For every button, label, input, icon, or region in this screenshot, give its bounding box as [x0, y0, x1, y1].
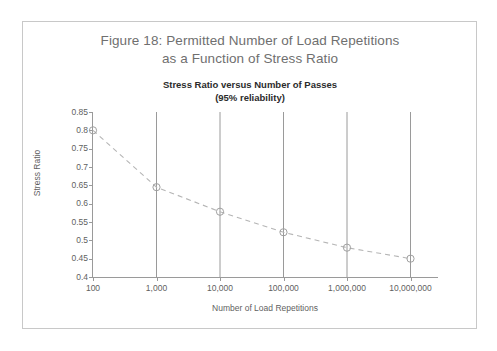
plot-svg: [93, 112, 437, 277]
chart-title: Stress Ratio versus Number of Passes (95…: [40, 79, 460, 104]
y-tick-label: 0.8: [54, 126, 88, 135]
figure-caption-line-2: as a Function of Stress Ratio: [40, 50, 460, 68]
y-tick-mark: [89, 204, 92, 205]
y-tick-mark: [89, 259, 92, 260]
y-tick-mark: [89, 130, 92, 131]
plot-area: [93, 112, 437, 277]
y-tick-mark: [89, 277, 92, 278]
y-tick-label: 0.7: [54, 163, 88, 172]
y-tick-label: 0.6: [54, 199, 88, 208]
x-axis-title: Number of Load Repetitions: [93, 303, 437, 313]
series-line-group: [93, 130, 411, 258]
y-tick-mark: [89, 167, 92, 168]
figure-caption: Figure 18: Permitted Number of Load Repe…: [40, 32, 460, 68]
y-tick-mark: [89, 185, 92, 186]
x-tick-mark: [220, 278, 221, 281]
y-tick-mark: [89, 222, 92, 223]
y-tick-mark: [89, 149, 92, 150]
x-tick-label: 10,000,000: [374, 283, 448, 293]
series-line: [93, 130, 411, 258]
x-tick-mark: [411, 278, 412, 281]
y-tick-label: 0.85: [54, 108, 88, 117]
y-tick-label: 0.55: [54, 218, 88, 227]
y-tick-label: 0.75: [54, 144, 88, 153]
x-tick-mark: [93, 278, 94, 281]
y-tick-mark: [89, 112, 92, 113]
x-tick-mark: [157, 278, 158, 281]
x-tick-mark: [284, 278, 285, 281]
series-markers-group: [89, 127, 414, 263]
y-axis-tick-labels: 0.850.80.750.70.650.60.550.50.450.4: [52, 0, 88, 351]
x-axis-line: [92, 277, 438, 278]
y-tick-label: 0.65: [54, 181, 88, 190]
chart-title-subtitle: (95% reliability): [40, 92, 460, 105]
y-tick-mark: [89, 240, 92, 241]
y-tick-label: 0.4: [54, 273, 88, 282]
y-axis-title: Stress Ratio: [32, 133, 42, 213]
chart-title-main: Stress Ratio versus Number of Passes: [40, 79, 460, 92]
figure-caption-line-1: Figure 18: Permitted Number of Load Repe…: [40, 32, 460, 50]
y-tick-label: 0.45: [54, 254, 88, 263]
x-tick-mark: [347, 278, 348, 281]
figure-root: Figure 18: Permitted Number of Load Repe…: [0, 0, 497, 351]
y-tick-label: 0.5: [54, 236, 88, 245]
gridlines-group: [93, 112, 411, 277]
